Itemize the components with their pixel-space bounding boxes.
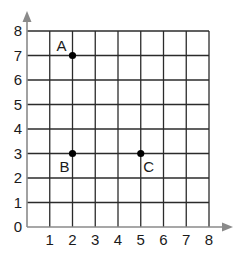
point-label-c: C (143, 158, 154, 175)
x-tick-label: 4 (114, 231, 122, 248)
x-tick-label: 8 (205, 231, 213, 248)
point-label-b: B (59, 158, 69, 175)
y-tick-label: 4 (14, 120, 22, 137)
y-tick-labels: 012345678 (14, 22, 22, 235)
x-tick-label: 3 (91, 231, 99, 248)
x-tick-label: 1 (46, 231, 54, 248)
axes (23, 11, 234, 232)
y-tick-label: 7 (14, 47, 22, 64)
point-b (69, 150, 76, 157)
y-tick-label: 5 (14, 96, 22, 113)
y-tick-label: 6 (14, 71, 22, 88)
x-tick-label: 7 (182, 231, 190, 248)
x-tick-label: 2 (68, 231, 76, 248)
y-axis-arrow-icon (23, 11, 32, 22)
y-tick-label: 0 (14, 218, 22, 235)
point-c (137, 150, 144, 157)
y-tick-label: 8 (14, 22, 22, 39)
x-tick-labels: 12345678 (46, 231, 214, 248)
grid-lines (27, 31, 209, 227)
y-tick-label: 3 (14, 145, 22, 162)
point-a (69, 52, 76, 59)
y-tick-label: 1 (14, 194, 22, 211)
x-tick-label: 5 (137, 231, 145, 248)
point-label-a: A (56, 37, 66, 54)
x-axis-arrow-icon (222, 223, 233, 232)
coordinate-grid-chart: 12345678 012345678 ABC (0, 0, 247, 254)
y-tick-label: 2 (14, 169, 22, 186)
x-tick-label: 6 (159, 231, 167, 248)
